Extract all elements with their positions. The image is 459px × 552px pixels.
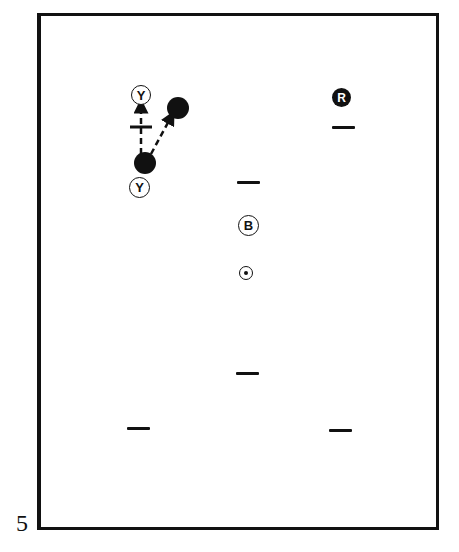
marker-r: R (332, 88, 351, 107)
center-dot-icon (244, 271, 248, 275)
marker-y-bottom: Y (129, 177, 150, 198)
dotted-circle-icon (239, 266, 253, 280)
marker-y-top: Y (131, 85, 151, 105)
diagonal-arrow-icon (151, 117, 171, 154)
filled-dot-lower-icon (134, 152, 156, 174)
dash-right-top (332, 126, 355, 129)
dash-right-bottom (329, 429, 352, 432)
dash-left-bottom (127, 427, 150, 430)
dash-center-top (237, 181, 260, 184)
marker-b: B (238, 215, 259, 236)
filled-dot-upper-icon (167, 97, 189, 119)
arrows-layer (0, 0, 459, 552)
dash-center-bottom (236, 372, 259, 375)
